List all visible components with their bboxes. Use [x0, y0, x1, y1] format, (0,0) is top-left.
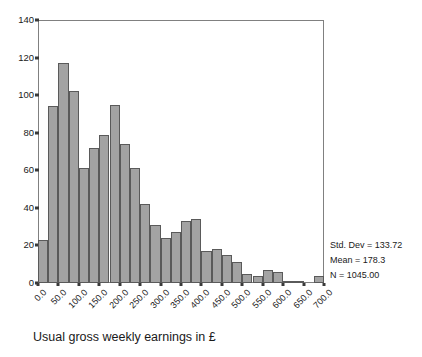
x-axis-tick-label: 650.0: [292, 288, 314, 310]
x-axis-tick-mark: [98, 283, 101, 286]
histogram-bar: [314, 276, 324, 284]
x-axis-tick-mark: [159, 283, 162, 286]
x-axis-tick-label: 300.0: [149, 288, 171, 310]
x-axis-tick-label: 400.0: [189, 288, 211, 310]
y-axis-labels: 020406080100120140: [2, 20, 34, 283]
histogram-bar: [201, 251, 211, 283]
n-line: N = 1045.00: [330, 268, 420, 283]
x-axis-tick-mark: [241, 283, 244, 286]
x-axis-tick-mark: [323, 283, 326, 286]
statistics-annotation: Std. Dev = 133.72 Mean = 178.3 N = 1045.…: [330, 238, 420, 283]
histogram-bar: [89, 148, 99, 283]
histogram-figure: 020406080100120140 0.050.0100.0150.0200.…: [0, 0, 422, 357]
x-axis-tick-mark: [180, 283, 183, 286]
y-axis-tick-label: 80: [8, 128, 34, 138]
histogram-bar: [212, 249, 222, 283]
histogram-bar: [69, 91, 79, 283]
x-axis-tick-label: 150.0: [87, 288, 109, 310]
y-axis-tick-label: 0: [8, 278, 34, 288]
x-axis-tick-mark: [37, 283, 40, 286]
x-axis-tick-mark: [261, 283, 264, 286]
x-axis-tick-mark: [118, 283, 121, 286]
x-axis-tick-mark: [139, 283, 142, 286]
histogram-bar: [222, 255, 232, 283]
histogram-bar: [130, 168, 140, 283]
y-axis-tick-label: 100: [8, 90, 34, 100]
histogram-bar: [48, 106, 58, 283]
x-axis-tick-mark: [302, 283, 305, 286]
mean-line: Mean = 178.3: [330, 253, 420, 268]
x-axis-tick-label: 200.0: [108, 288, 130, 310]
histogram-bar: [99, 135, 109, 283]
x-axis-tick-label: 450.0: [210, 288, 232, 310]
std-dev-line: Std. Dev = 133.72: [330, 238, 420, 253]
histogram-bar: [150, 225, 160, 283]
histogram-bar: [79, 168, 89, 283]
x-axis-tick-mark: [57, 283, 60, 286]
x-axis-tick-mark: [282, 283, 285, 286]
histogram-bar: [110, 105, 120, 283]
x-axis-tick-mark: [200, 283, 203, 286]
histogram-bar: [38, 240, 48, 283]
histogram-bar: [273, 272, 283, 283]
x-axis-tick-label: 0.0: [33, 288, 48, 303]
y-axis-tick-label: 120: [8, 53, 34, 63]
x-axis-tick-label: 50.0: [50, 288, 69, 307]
y-axis-tick-label: 20: [8, 241, 34, 251]
y-axis-tick-label: 40: [8, 203, 34, 213]
histogram-bar: [253, 276, 263, 284]
histogram-bar: [120, 144, 130, 283]
histogram-bar: [161, 238, 171, 283]
x-axis-tick-mark: [77, 283, 80, 286]
histogram-bars: [38, 20, 324, 283]
x-axis-tick-label: 700.0: [312, 288, 334, 310]
x-axis-tick-label: 350.0: [169, 288, 191, 310]
x-axis-tick-label: 600.0: [271, 288, 293, 310]
histogram-bar: [263, 270, 273, 283]
histogram-bar: [171, 232, 181, 283]
x-axis-tick-label: 550.0: [251, 288, 273, 310]
histogram-bar: [242, 274, 252, 283]
x-axis-labels: 0.050.0100.0150.0200.0250.0300.0350.0400…: [38, 288, 338, 328]
histogram-bar: [232, 262, 242, 283]
x-axis-tick-label: 500.0: [230, 288, 252, 310]
histogram-bar: [191, 219, 201, 283]
histogram-bar: [140, 204, 150, 283]
y-axis-tick-label: 60: [8, 166, 34, 176]
x-axis-caption: Usual gross weekly earnings in £: [33, 330, 216, 344]
histogram-bar: [58, 63, 68, 283]
x-axis-tick-mark: [220, 283, 223, 286]
y-axis-tick-label: 140: [8, 15, 34, 25]
histogram-bar: [181, 221, 191, 283]
x-axis-tick-label: 100.0: [67, 288, 89, 310]
x-axis-tick-label: 250.0: [128, 288, 150, 310]
